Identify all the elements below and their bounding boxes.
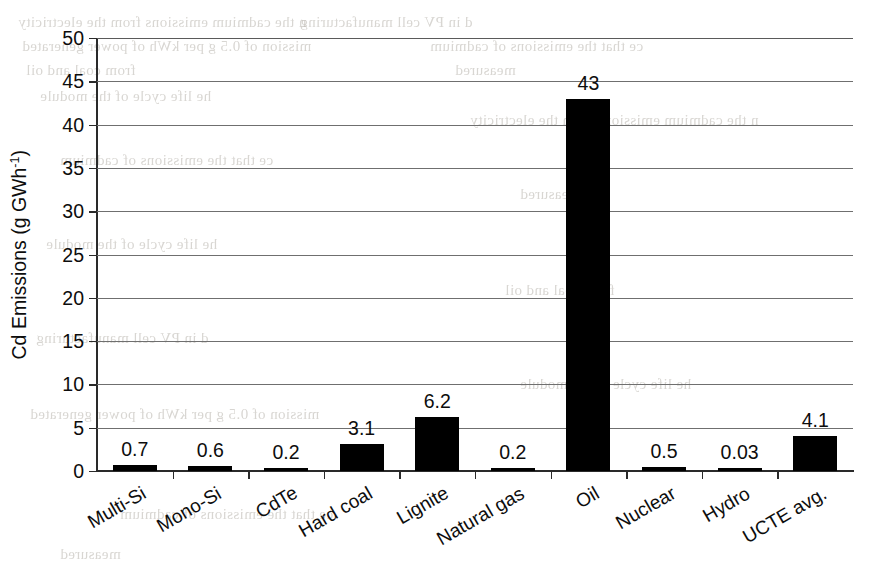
y-tick-mark xyxy=(89,81,97,82)
y-tick-label: 15 xyxy=(62,330,84,353)
bar[interactable] xyxy=(793,436,837,472)
x-axis-label: UCTE avg. xyxy=(739,482,830,548)
y-tick-label: 40 xyxy=(62,113,84,136)
bar-slot: 0.6 xyxy=(173,38,249,471)
x-axis-label: CdTe xyxy=(252,482,301,523)
x-axis-label: Multi-Si xyxy=(84,482,150,533)
bar-value-label: 0.03 xyxy=(721,441,759,464)
y-tick-mark xyxy=(89,38,97,39)
x-tick-mark xyxy=(173,471,174,479)
y-axis-title-text: Cd Emissions (g GWh xyxy=(9,167,31,359)
x-axis-labels: Multi-SiMono-SiCdTeHard coalLigniteNatur… xyxy=(97,480,853,576)
y-tick-mark xyxy=(89,211,97,212)
background-bleed-text: n the cadmium emissions from the electri… xyxy=(18,14,306,31)
x-axis-label: Mono-Si xyxy=(153,482,225,536)
bar[interactable] xyxy=(113,465,157,471)
bar-value-label: 6.2 xyxy=(424,390,451,413)
x-axis-label: Hard coal xyxy=(295,482,376,542)
bar-slot: 0.03 xyxy=(702,38,778,471)
y-tick-mark xyxy=(89,125,97,126)
bar-value-label: 0.6 xyxy=(197,439,224,462)
x-tick-mark xyxy=(324,471,325,479)
y-tick-label: 50 xyxy=(62,27,84,50)
y-tick-label: 30 xyxy=(62,200,84,223)
bar[interactable] xyxy=(415,417,459,471)
bar[interactable] xyxy=(340,444,384,471)
bar[interactable] xyxy=(718,468,762,471)
bar[interactable] xyxy=(264,468,308,471)
y-tick-label: 20 xyxy=(62,286,84,309)
x-axis-label: Lignite xyxy=(393,482,452,529)
y-tick-mark xyxy=(89,471,97,472)
bar-slot: 0.7 xyxy=(97,38,173,471)
x-tick-mark xyxy=(248,471,249,479)
bar-slot: 43 xyxy=(551,38,627,471)
x-tick-mark xyxy=(626,471,627,479)
bar-slot: 4.1 xyxy=(777,38,853,471)
x-axis-label: Hydro xyxy=(699,482,754,526)
x-axis-label: Oil xyxy=(572,482,603,513)
bar[interactable] xyxy=(642,467,686,471)
bar-value-label: 3.1 xyxy=(348,417,375,440)
y-tick-label: 5 xyxy=(73,416,84,439)
y-axis-title: Cd Emissions (g GWh-1) xyxy=(6,38,34,471)
bar-value-label: 4.1 xyxy=(802,409,829,432)
bar-value-label: 0.2 xyxy=(272,441,299,464)
y-tick-mark xyxy=(89,298,97,299)
bar-value-label: 0.7 xyxy=(121,438,148,461)
y-axis-title-suffix: ) xyxy=(9,150,31,157)
chart-figure: n the cadmium emissions from the electri… xyxy=(0,0,881,576)
bar[interactable] xyxy=(566,99,610,471)
bar[interactable] xyxy=(491,468,535,471)
x-tick-mark xyxy=(551,471,552,479)
y-tick-mark xyxy=(89,341,97,342)
bar-value-label: 43 xyxy=(578,72,600,95)
bar-slot: 0.2 xyxy=(248,38,324,471)
plot-area: 05101520253035404550 0.70.60.23.16.20.24… xyxy=(97,38,853,471)
x-axis-label: Nuclear xyxy=(612,482,680,534)
bar-slot: 6.2 xyxy=(399,38,475,471)
y-tick-mark xyxy=(89,255,97,256)
x-tick-mark xyxy=(475,471,476,479)
bar-slot: 0.2 xyxy=(475,38,551,471)
bar-slot: 0.5 xyxy=(626,38,702,471)
y-tick-mark xyxy=(89,168,97,169)
bar-value-label: 0.5 xyxy=(650,440,677,463)
y-tick-mark xyxy=(89,384,97,385)
background-bleed-text: d in PV cell manufacturing xyxy=(300,14,473,31)
y-tick-label: 10 xyxy=(62,373,84,396)
y-tick-label: 25 xyxy=(62,243,84,266)
bar-value-label: 0.2 xyxy=(499,441,526,464)
y-tick-label: 0 xyxy=(73,460,84,483)
y-tick-label: 45 xyxy=(62,70,84,93)
y-axis-title-exponent: -1 xyxy=(8,156,22,167)
x-tick-mark xyxy=(399,471,400,479)
y-tick-mark xyxy=(89,428,97,429)
bar[interactable] xyxy=(188,466,232,471)
x-tick-mark xyxy=(777,471,778,479)
bar-slot: 3.1 xyxy=(324,38,400,471)
x-tick-mark xyxy=(702,471,703,479)
y-tick-label: 35 xyxy=(62,156,84,179)
bar-series: 0.70.60.23.16.20.2430.50.034.1 xyxy=(97,38,853,471)
